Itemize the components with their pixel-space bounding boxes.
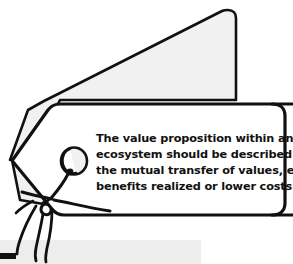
tag-string-stub	[16, 201, 33, 213]
tag-text-line-3: the mutual transfer of values, e.g.	[96, 164, 293, 177]
tag-text-line-1: The value proposition within an	[96, 132, 293, 145]
tag-illustration: The value proposition within an ecosyste…	[0, 0, 293, 264]
tag-text-line-4: benefits realized or lower costs.	[96, 180, 293, 193]
bottom-band	[0, 240, 201, 264]
corner-mark	[0, 253, 16, 259]
tag-illustration-svg: The value proposition within an ecosyste…	[0, 0, 293, 264]
tag-text-line-2: ecosystem should be described as	[96, 148, 293, 161]
